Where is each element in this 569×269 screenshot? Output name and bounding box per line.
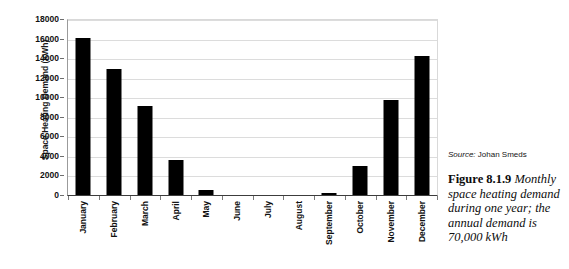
y-axis-tick-label: 8000 bbox=[40, 113, 59, 122]
figure-caption: Figure 8.1.9 Monthly space heating deman… bbox=[448, 172, 568, 245]
x-label-slot: November bbox=[376, 201, 407, 267]
bar bbox=[383, 100, 398, 195]
bar bbox=[137, 106, 152, 195]
bar-slot bbox=[345, 19, 376, 195]
x-axis-tick-label: June bbox=[233, 201, 242, 221]
bar bbox=[168, 160, 183, 195]
bar-slot bbox=[99, 19, 130, 195]
y-axis-tick-mark bbox=[60, 117, 64, 118]
y-axis-tick-mark bbox=[60, 156, 64, 157]
x-axis-tick-mark bbox=[314, 196, 315, 200]
bars-layer bbox=[68, 19, 437, 195]
y-axis-tick-mark bbox=[60, 97, 64, 98]
figure-root: Space Heating Demand (kWh) 0200040006000… bbox=[0, 0, 569, 269]
x-axis-tick-mark bbox=[68, 196, 69, 200]
x-axis-tick-mark bbox=[222, 196, 223, 200]
x-label-slot: April bbox=[160, 201, 191, 267]
x-axis-tick-label: April bbox=[171, 201, 180, 220]
bar-slot bbox=[406, 19, 437, 195]
x-label-slot: October bbox=[345, 201, 376, 267]
bar-slot bbox=[253, 19, 284, 195]
x-axis-tick-mark bbox=[160, 196, 161, 200]
x-axis-tick-mark bbox=[437, 196, 438, 200]
bar bbox=[107, 69, 122, 195]
bar-slot bbox=[68, 19, 99, 195]
x-axis-tick-mark bbox=[283, 196, 284, 200]
source-name: Johan Smeds bbox=[478, 150, 527, 159]
x-axis-tick-label: March bbox=[141, 201, 150, 226]
bar-slot bbox=[130, 19, 161, 195]
x-axis-tick-labels: JanuaryFebruaryMarchAprilMayJuneJulyAugu… bbox=[68, 201, 437, 267]
y-axis-tick-label: 0 bbox=[54, 191, 59, 200]
figure-number: Figure 8.1.9 bbox=[448, 172, 511, 186]
x-axis-tick-label: December bbox=[417, 201, 426, 242]
y-axis-tick-labels: 0200040006000800010000120001400016000180… bbox=[0, 19, 63, 196]
bar-chart: Space Heating Demand (kWh) 0200040006000… bbox=[0, 0, 445, 269]
y-axis-tick-label: 2000 bbox=[40, 171, 59, 180]
y-axis-tick-label: 4000 bbox=[40, 152, 59, 161]
x-label-slot: September bbox=[314, 201, 345, 267]
x-axis-tick-label: January bbox=[79, 201, 88, 234]
y-axis-tick-mark bbox=[60, 58, 64, 59]
bar bbox=[199, 190, 214, 195]
x-axis-tick-label: September bbox=[325, 201, 334, 245]
x-axis-tick-label: May bbox=[202, 201, 211, 218]
bar-slot bbox=[191, 19, 222, 195]
y-axis-tick-label: 6000 bbox=[40, 132, 59, 141]
x-label-slot: August bbox=[283, 201, 314, 267]
bar bbox=[322, 193, 337, 195]
x-axis-tick-mark bbox=[376, 196, 377, 200]
bar bbox=[353, 166, 368, 195]
y-axis-tick-mark bbox=[60, 19, 64, 20]
y-axis-tick-mark bbox=[60, 136, 64, 137]
caption-block: Source: Johan Smeds Figure 8.1.9 Monthly… bbox=[448, 0, 569, 269]
x-axis-tick-label: November bbox=[387, 201, 396, 243]
y-axis-tick-mark bbox=[60, 195, 64, 196]
bar-slot bbox=[160, 19, 191, 195]
x-label-slot: June bbox=[222, 201, 253, 267]
x-axis-tick-label: August bbox=[294, 201, 303, 230]
y-axis-tick-mark bbox=[60, 39, 64, 40]
x-axis-tick-label: February bbox=[110, 201, 119, 237]
y-axis-tick-label: 10000 bbox=[35, 93, 59, 102]
x-label-slot: July bbox=[253, 201, 284, 267]
source-credit: Source: Johan Smeds bbox=[448, 150, 527, 159]
x-axis-tick-mark bbox=[345, 196, 346, 200]
x-axis-tick-mark bbox=[130, 196, 131, 200]
bar-slot bbox=[283, 19, 314, 195]
x-axis-tick-mark bbox=[253, 196, 254, 200]
bar-slot bbox=[314, 19, 345, 195]
y-axis-tick-label: 16000 bbox=[35, 34, 59, 43]
y-axis-tick-mark bbox=[60, 78, 64, 79]
x-axis-tick-mark bbox=[406, 196, 407, 200]
x-label-slot: March bbox=[130, 201, 161, 267]
bar bbox=[414, 56, 429, 195]
x-axis-tick-marks bbox=[68, 196, 437, 200]
x-axis-tick-mark bbox=[191, 196, 192, 200]
x-label-slot: February bbox=[99, 201, 130, 267]
x-label-slot: January bbox=[68, 201, 99, 267]
y-axis-tick-label: 12000 bbox=[35, 73, 59, 82]
x-axis-tick-label: October bbox=[356, 201, 365, 234]
x-axis-tick-mark bbox=[99, 196, 100, 200]
bar-slot bbox=[376, 19, 407, 195]
y-axis-tick-label: 14000 bbox=[35, 54, 59, 63]
x-axis-tick-label: July bbox=[264, 201, 273, 218]
y-axis-tick-label: 18000 bbox=[35, 15, 59, 24]
bar bbox=[76, 38, 91, 195]
x-label-slot: May bbox=[191, 201, 222, 267]
x-label-slot: December bbox=[406, 201, 437, 267]
y-axis-tick-mark bbox=[60, 175, 64, 176]
source-label: Source: bbox=[448, 150, 476, 159]
bar-slot bbox=[222, 19, 253, 195]
